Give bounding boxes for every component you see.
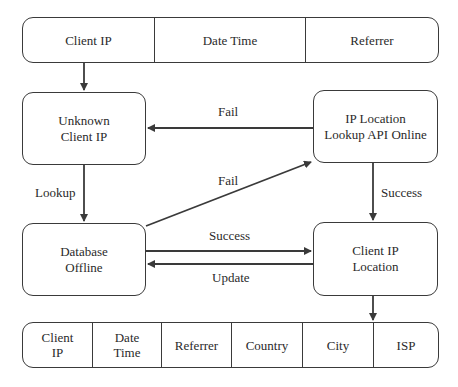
edge-label-db-success: Success xyxy=(209,228,250,244)
edge-label-api-fail: Fail xyxy=(218,104,238,120)
edge-label-update: Update xyxy=(212,270,250,286)
edge-label-api-success: Success xyxy=(381,185,422,201)
edge-label-db-fail: Fail xyxy=(218,173,238,189)
edge-db-to-api xyxy=(146,162,311,226)
edge-label-lookup: Lookup xyxy=(35,185,75,201)
